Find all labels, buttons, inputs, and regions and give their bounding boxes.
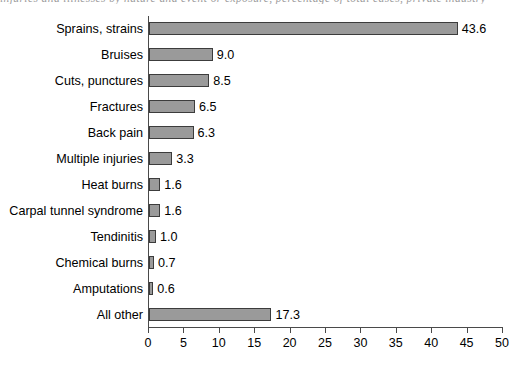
bar-row: Amputations0.6 (0, 276, 525, 302)
bar-row: Tendinitis1.0 (0, 224, 525, 250)
category-label: Sprains, strains (56, 16, 143, 42)
bar-row: Bruises9.0 (0, 42, 525, 68)
bar-value-label: 0.6 (157, 276, 175, 302)
bar-value-label: 3.3 (176, 146, 194, 172)
category-label: All other (97, 302, 143, 328)
bar-row: Fractures6.5 (0, 94, 525, 120)
bar-value-label: 43.6 (462, 16, 487, 42)
bar-value-label: 1.0 (160, 224, 178, 250)
x-axis-tick-label: 40 (424, 336, 438, 350)
x-axis-tick-label: 20 (283, 336, 297, 350)
category-label: Amputations (73, 276, 143, 302)
category-label: Cuts, punctures (55, 68, 143, 94)
bar (149, 282, 153, 295)
bar-row: Chemical burns0.7 (0, 250, 525, 276)
bar (149, 22, 458, 35)
bar (149, 178, 160, 191)
bar (149, 126, 194, 139)
x-axis-tick (396, 327, 397, 333)
bar-row: Back pain6.3 (0, 120, 525, 146)
category-label: Bruises (101, 42, 143, 68)
category-label: Fractures (90, 94, 143, 120)
x-axis-tick (290, 327, 291, 333)
bar (149, 74, 209, 87)
bar-row: Carpal tunnel syndrome1.6 (0, 198, 525, 224)
category-label: Heat burns (81, 172, 143, 198)
bar-value-label: 6.5 (199, 94, 217, 120)
x-axis-tick (254, 327, 255, 333)
category-label: Multiple injuries (56, 146, 143, 172)
bar-value-label: 1.6 (164, 198, 182, 224)
category-label: Chemical burns (56, 250, 144, 276)
bar-value-label: 8.5 (213, 68, 231, 94)
bar (149, 256, 154, 269)
x-axis-tick-label: 0 (145, 336, 152, 350)
x-axis-tick (219, 327, 220, 333)
bar-row: Sprains, strains43.6 (0, 16, 525, 42)
x-axis-tick (148, 327, 149, 333)
bar-chart: injuries and illnesses by nature and eve… (0, 0, 525, 368)
bar-row: All other17.3 (0, 302, 525, 328)
clipped-caption-text: injuries and illnesses by nature and eve… (0, 0, 525, 4)
x-axis-tick-label: 25 (318, 336, 332, 350)
bar-row: Heat burns1.6 (0, 172, 525, 198)
bar (149, 204, 160, 217)
bar (149, 308, 271, 321)
bar-row: Multiple injuries3.3 (0, 146, 525, 172)
bar-value-label: 1.6 (164, 172, 182, 198)
bar-value-label: 0.7 (158, 250, 176, 276)
bar (149, 152, 172, 165)
x-axis-tick-label: 15 (247, 336, 261, 350)
x-axis-tick (360, 327, 361, 333)
x-axis-tick-label: 5 (180, 336, 187, 350)
x-axis-tick-label: 35 (389, 336, 403, 350)
x-axis-tick-label: 50 (495, 336, 509, 350)
bar-value-label: 9.0 (217, 42, 235, 68)
category-label: Back pain (88, 120, 143, 146)
x-axis-tick-label: 45 (460, 336, 474, 350)
bar (149, 48, 213, 61)
x-axis-tick (467, 327, 468, 333)
x-axis-tick (431, 327, 432, 333)
bar-value-label: 6.3 (198, 120, 216, 146)
x-axis-tick (325, 327, 326, 333)
bar (149, 100, 195, 113)
bar-row: Cuts, punctures8.5 (0, 68, 525, 94)
x-axis-tick-label: 10 (212, 336, 226, 350)
x-axis-tick (502, 327, 503, 333)
x-axis-tick-label: 30 (353, 336, 367, 350)
x-axis-tick (183, 327, 184, 333)
bar (149, 230, 156, 243)
bar-value-label: 17.3 (275, 302, 300, 328)
category-label: Tendinitis (90, 224, 143, 250)
category-label: Carpal tunnel syndrome (9, 198, 143, 224)
